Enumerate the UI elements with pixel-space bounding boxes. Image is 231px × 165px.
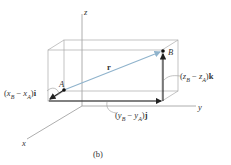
x-axis xyxy=(27,106,82,139)
figure-caption: (b) xyxy=(93,150,103,159)
component-vectors xyxy=(49,54,163,101)
z-axis-label: z xyxy=(84,8,87,17)
vector-r-label: r xyxy=(107,63,111,72)
leader-z-component xyxy=(164,76,180,80)
point-B xyxy=(161,49,165,53)
point-A-label: A xyxy=(59,80,64,89)
y-component-label: (yB − yA)j xyxy=(115,111,147,122)
x-component-arrow xyxy=(50,90,64,99)
position-vector-r xyxy=(64,52,160,90)
x-component-label: (xB − xA)i xyxy=(4,89,36,100)
z-component-label: (zB − zA)k xyxy=(180,72,213,83)
x-axis-label: x xyxy=(22,139,26,148)
point-B-label: B xyxy=(168,48,173,57)
leader-x-component xyxy=(47,88,59,94)
y-axis-label: y xyxy=(198,103,202,112)
